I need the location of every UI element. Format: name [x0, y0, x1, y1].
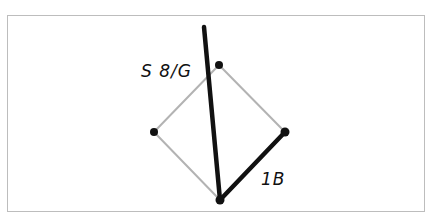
label-s81g: S 8/G — [141, 61, 192, 81]
vertex-right — [281, 128, 290, 137]
thick-edge-bottom-right — [220, 132, 285, 200]
label-1b: 1B — [261, 169, 285, 189]
vertex-top — [215, 61, 223, 69]
edge-top-right — [219, 65, 285, 132]
thick-long-line — [204, 27, 220, 200]
diagram-canvas: S 8/G 1B — [0, 0, 432, 219]
vertex-bottom — [216, 196, 225, 205]
vertex-left — [150, 128, 158, 136]
edge-left-bottom — [154, 132, 220, 200]
